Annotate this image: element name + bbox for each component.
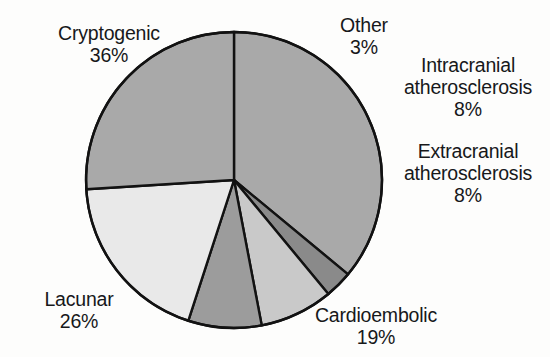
slice-label-cryptogenic: Cryptogenic 36% <box>14 22 204 66</box>
slice-label-other: Other 3% <box>316 14 412 58</box>
slice-label-intracranial-line2: atherosclerosis <box>386 76 550 98</box>
slice-label-cryptogenic-name: Cryptogenic <box>14 22 204 44</box>
pie-chart-figure: Cryptogenic 36% Other 3% Intracranial at… <box>0 0 550 357</box>
slice-label-intracranial-line1: Intracranial <box>386 54 550 76</box>
slice-label-other-name: Other <box>316 14 412 36</box>
slice-label-lacunar-value: 26% <box>18 310 140 332</box>
caption-partial-text <box>96 347 456 357</box>
slice-label-cardioembolic-name: Cardioembolic <box>286 304 466 326</box>
slice-label-extracranial-line1: Extracranial <box>386 140 550 162</box>
slice-label-extracranial-value: 8% <box>386 184 550 206</box>
slice-label-lacunar: Lacunar 26% <box>18 288 140 332</box>
slice-label-cardioembolic-value: 19% <box>286 326 466 348</box>
slice-label-cryptogenic-value: 36% <box>14 44 204 66</box>
slice-label-cardioembolic: Cardioembolic 19% <box>286 304 466 348</box>
slice-label-extracranial-atherosclerosis: Extracranial atherosclerosis 8% <box>386 140 550 207</box>
pie-slice-group <box>86 32 382 328</box>
slice-label-lacunar-name: Lacunar <box>18 288 140 310</box>
slice-label-extracranial-line2: atherosclerosis <box>386 162 550 184</box>
slice-label-intracranial-value: 8% <box>386 98 550 120</box>
slice-label-intracranial-atherosclerosis: Intracranial atherosclerosis 8% <box>386 54 550 121</box>
